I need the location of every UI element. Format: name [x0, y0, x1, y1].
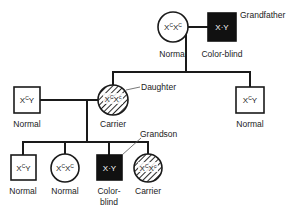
- grandson-callout-pointer: [122, 138, 141, 155]
- grandchild-4-symbol: XCXc: [134, 154, 162, 182]
- grandfather-phenotype-label: Color-blind: [201, 49, 242, 59]
- pedigree-chart: XCXC Normal X·Y Color-blind Grandfather …: [0, 0, 292, 219]
- husband-symbol: XCY: [14, 87, 40, 113]
- grandson-symbol: X·Y: [97, 155, 122, 180]
- grandfather-symbol: X·Y: [208, 13, 236, 41]
- son-symbol: XCY: [236, 87, 264, 113]
- grandson-genotype: X·Y: [103, 164, 117, 173]
- grandmother-phenotype-label: Normal: [159, 49, 187, 59]
- grandson-phenotype-label-line2: blind: [100, 197, 118, 207]
- generation-3: XCY Normal XCXC Normal X·Y Color- blind …: [9, 129, 177, 207]
- grandchild-2-symbol: XCXC: [51, 154, 79, 182]
- daughter-symbol: XCXc: [98, 85, 128, 115]
- grandson-callout: Grandson: [140, 129, 178, 139]
- grandson-phenotype-label-line1: Color-: [97, 186, 120, 196]
- grandchild-1-symbol: XCY: [11, 155, 36, 180]
- gc2-phenotype-label: Normal: [51, 186, 79, 196]
- gc4-phenotype-label: Carrier: [135, 186, 161, 196]
- grandfather-callout: Grandfather: [240, 10, 286, 20]
- grandfather-genotype: X·Y: [215, 23, 229, 32]
- generation-2: XCY Normal XCXc Carrier Daughter XCY Nor…: [13, 82, 264, 142]
- grandmother-symbol: XCXC: [158, 12, 188, 42]
- daughter-phenotype-label: Carrier: [100, 119, 126, 129]
- gc1-phenotype-label: Normal: [9, 186, 37, 196]
- generation-1: XCXC Normal X·Y Color-blind Grandfather: [113, 10, 286, 87]
- daughter-callout: Daughter: [141, 82, 176, 92]
- husband-phenotype-label: Normal: [13, 119, 41, 129]
- daughter-callout-pointer: [126, 87, 140, 90]
- son-phenotype-label: Normal: [236, 119, 264, 129]
